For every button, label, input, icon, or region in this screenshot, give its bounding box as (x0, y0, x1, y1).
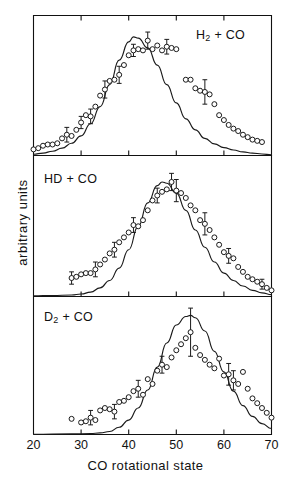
data-point (212, 235, 217, 240)
data-point (226, 253, 231, 258)
data-point (226, 122, 231, 127)
data-point (250, 277, 255, 282)
data-point (255, 401, 260, 406)
data-point (188, 330, 193, 335)
data-point (169, 179, 174, 184)
data-point (240, 132, 245, 137)
data-point (112, 247, 117, 252)
data-point (88, 271, 93, 276)
data-point (231, 256, 236, 261)
data-point (83, 113, 88, 118)
data-point (136, 224, 141, 229)
data-point (121, 235, 126, 240)
data-point (259, 406, 264, 411)
data-point (250, 137, 255, 142)
data-point (93, 418, 98, 423)
data-point (126, 230, 131, 235)
data-point (74, 127, 79, 132)
data-point (221, 373, 226, 378)
y-axis-label: arbitrary units (15, 163, 30, 283)
data-point (117, 400, 122, 405)
data-point (88, 415, 93, 420)
data-point (136, 47, 141, 52)
data-point (150, 198, 155, 203)
panel-label-hd-co: HD + CO (44, 172, 97, 186)
data-point (269, 415, 274, 420)
data-point (98, 93, 103, 98)
data-point (174, 47, 179, 52)
x-tick-label-50: 50 (161, 438, 191, 452)
data-point (60, 136, 65, 141)
data-point (169, 355, 174, 360)
data-point (69, 416, 74, 421)
data-point (259, 282, 264, 287)
data-point (131, 223, 136, 228)
data-point (150, 381, 155, 386)
data-point (221, 250, 226, 255)
data-point (155, 193, 160, 198)
x-tick-label-70: 70 (257, 438, 287, 452)
data-point (236, 264, 241, 269)
data-point (217, 356, 222, 361)
data-point (207, 92, 212, 97)
data-point (102, 87, 107, 92)
data-point (217, 113, 222, 118)
data-point (202, 221, 207, 226)
data-point (169, 45, 174, 50)
data-point (31, 147, 36, 152)
calculated-curve (34, 315, 272, 434)
data-point (140, 48, 145, 53)
data-point (264, 410, 269, 415)
data-point (245, 274, 250, 279)
data-point (198, 218, 203, 223)
data-point (102, 406, 107, 411)
data-point (188, 203, 193, 208)
data-point (36, 146, 41, 151)
data-point (174, 348, 179, 353)
data-point (231, 126, 236, 131)
data-point (164, 187, 169, 192)
data-point (93, 267, 98, 272)
data-point (74, 274, 79, 279)
data-point (155, 43, 160, 48)
data-point (198, 88, 203, 93)
data-point (245, 386, 250, 391)
data-point (226, 372, 231, 377)
data-point (88, 114, 93, 119)
data-point (160, 189, 165, 194)
data-point (259, 140, 264, 145)
data-point (269, 288, 274, 293)
data-point (126, 53, 131, 58)
data-point (69, 133, 74, 138)
data-point (179, 342, 184, 347)
data-point (45, 142, 50, 147)
data-point (121, 398, 126, 403)
data-point (102, 257, 107, 262)
data-point (121, 63, 126, 68)
data-point (198, 353, 203, 358)
data-point (183, 195, 188, 200)
x-axis-label: CO rotational state (0, 458, 291, 473)
data-point (107, 407, 112, 412)
data-point (164, 44, 169, 49)
data-point (98, 262, 103, 267)
data-point (179, 191, 184, 196)
data-point (193, 86, 198, 91)
x-tick-label-20: 20 (19, 438, 49, 452)
data-point (131, 48, 136, 53)
data-point (140, 218, 145, 223)
data-point (155, 368, 160, 373)
data-point (117, 240, 122, 245)
data-point (250, 396, 255, 401)
data-point (202, 89, 207, 94)
data-point (183, 77, 188, 82)
data-point (212, 366, 217, 371)
x-tick-label-30: 30 (66, 438, 96, 452)
data-point (107, 78, 112, 83)
panel-label-h2-co: H2 + CO (196, 28, 245, 42)
data-point (79, 120, 84, 125)
data-point (140, 392, 145, 397)
data-point (50, 142, 55, 147)
data-point (240, 269, 245, 274)
data-point (83, 419, 88, 424)
